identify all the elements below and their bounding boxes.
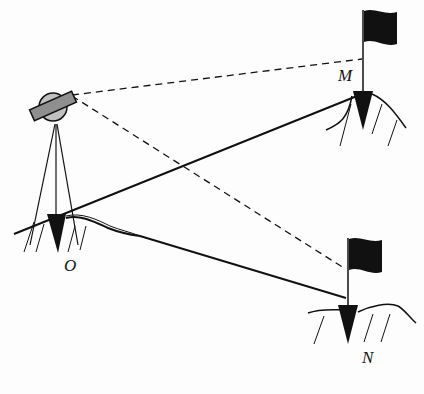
stake-m — [353, 91, 373, 130]
flag-n-icon — [348, 238, 382, 306]
stake-n — [338, 305, 358, 344]
label-o: O — [64, 256, 76, 276]
theodolite-icon — [30, 91, 77, 121]
sight-line-n — [72, 96, 344, 268]
diagram-canvas: M O N — [0, 0, 424, 394]
label-n: N — [362, 348, 373, 368]
label-m: M — [338, 66, 352, 86]
sight-line-m — [72, 59, 362, 95]
line-on — [66, 215, 346, 298]
flag-m-icon — [363, 10, 397, 92]
stake-o — [24, 214, 86, 253]
slope-line-om — [14, 94, 362, 234]
hill-n — [308, 304, 416, 344]
survey-diagram — [0, 0, 424, 394]
